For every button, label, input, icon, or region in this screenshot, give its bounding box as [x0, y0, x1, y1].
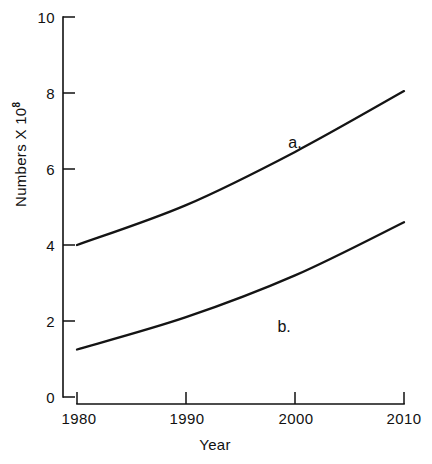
x-tick-label-2000: 2000	[279, 410, 314, 427]
y-tick-label-8: 8	[46, 85, 55, 102]
series-label-a: a.	[288, 134, 301, 151]
x-axis-ticks	[77, 392, 404, 404]
x-axis-title: Year	[199, 436, 231, 453]
y-axis-title: Numbers X 108	[11, 102, 29, 207]
series-line-b	[77, 222, 404, 349]
y-axis-title-text: Numbers X 108	[11, 102, 29, 207]
x-axis-tick-labels: 1980 1990 2000 2010	[62, 410, 422, 427]
x-tick-label-1990: 1990	[170, 410, 205, 427]
x-tick-label-2010: 2010	[387, 410, 422, 427]
y-axis-title-main: Numbers X 10	[12, 108, 29, 207]
y-tick-label-10: 10	[38, 9, 56, 26]
data-series-layer	[77, 91, 404, 349]
chart-figure: Numbers X 108 10 8 6 4 2 0	[0, 0, 432, 464]
line-chart: Numbers X 108 10 8 6 4 2 0	[0, 0, 432, 464]
series-line-a	[77, 91, 404, 245]
y-axis-tick-labels: 10 8 6 4 2 0	[38, 9, 56, 406]
x-tick-label-1980: 1980	[62, 410, 97, 427]
y-tick-label-2: 2	[46, 313, 55, 330]
y-axis-ticks	[63, 17, 75, 397]
y-tick-label-0: 0	[46, 389, 55, 406]
series-label-b: b.	[277, 318, 290, 335]
y-tick-label-4: 4	[46, 237, 55, 254]
y-tick-label-6: 6	[46, 161, 55, 178]
y-axis-title-exponent: 8	[11, 102, 22, 108]
